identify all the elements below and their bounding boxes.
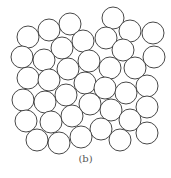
circle — [136, 75, 158, 97]
circle — [55, 84, 77, 106]
circle — [78, 50, 100, 72]
circle — [115, 82, 137, 104]
circle — [33, 49, 55, 71]
circle — [38, 69, 60, 91]
circle — [143, 46, 165, 68]
circle — [100, 99, 122, 121]
circle — [72, 30, 94, 52]
circle — [11, 46, 33, 68]
circle — [15, 110, 37, 132]
circle — [17, 26, 39, 48]
circle — [99, 57, 121, 79]
circle — [61, 105, 83, 127]
circle — [38, 19, 60, 41]
circle — [109, 129, 131, 151]
circle — [12, 89, 34, 111]
circle — [90, 118, 112, 140]
circle — [17, 67, 39, 89]
circle — [70, 126, 92, 148]
circle — [34, 91, 56, 113]
figure-caption: (b) — [0, 153, 171, 164]
circle — [142, 22, 164, 44]
circle — [136, 122, 158, 144]
circle — [40, 111, 62, 133]
circle-packing-diagram — [0, 0, 171, 178]
circle — [26, 129, 48, 151]
circle — [48, 132, 70, 154]
circle — [74, 72, 96, 94]
